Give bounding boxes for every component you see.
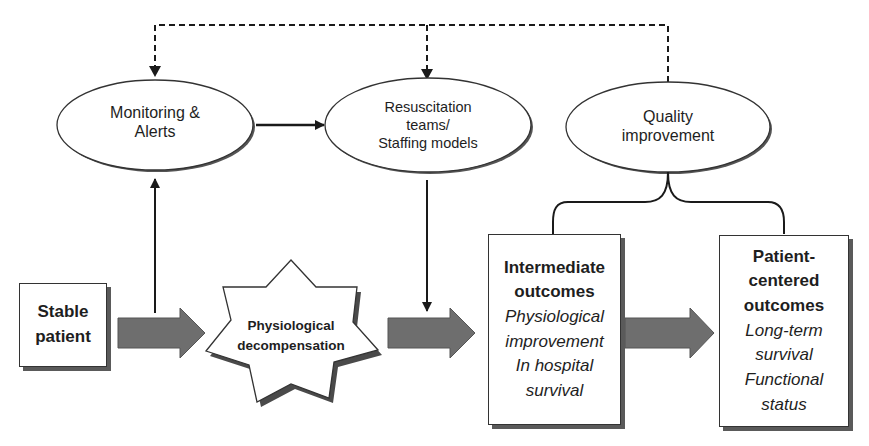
stable-patient-box: Stable patient [19, 283, 107, 367]
dashed-arrowhead-monitoring [149, 66, 161, 77]
feedback-dashed-lines [155, 25, 668, 82]
block-arrow-2 [388, 308, 475, 358]
patient-centered-outcomes-box: Patient- centered outcomes Long-term sur… [719, 235, 849, 427]
resuscitation-label: Resuscitation teams/ Staffing models [343, 98, 513, 152]
brace-quality-to-outcomes [553, 172, 784, 234]
decompensation-label: Physiological decompensation [220, 316, 362, 357]
intermediate-outcomes-box: Intermediate outcomes Physiological impr… [488, 234, 621, 425]
block-arrow-1 [118, 308, 205, 358]
block-arrow-3 [625, 308, 714, 358]
monitoring-label: Monitoring & Alerts [80, 103, 230, 141]
quality-label: Quality improvement [593, 107, 743, 145]
